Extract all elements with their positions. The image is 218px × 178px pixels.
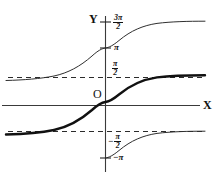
tick-label-minus-pi: −π xyxy=(113,153,123,162)
tick-label-three-pi-over-two: 3π 2 xyxy=(113,13,123,31)
fraction-denominator: 2 xyxy=(112,69,118,77)
fraction-denominator: 2 xyxy=(114,142,120,150)
fraction-denominator: 2 xyxy=(113,23,123,31)
math-graph-figure: Y X O 3π 2 π π 2 − π 2 −π xyxy=(0,0,218,178)
fraction-three-pi-over-two: 3π 2 xyxy=(113,14,123,31)
tick-label-pi: π xyxy=(114,43,119,52)
tick-label-pi-over-two: π 2 xyxy=(112,59,118,77)
origin-label: O xyxy=(93,88,102,100)
y-axis-label: Y xyxy=(89,13,98,25)
fraction-pi-over-two: π 2 xyxy=(112,60,118,77)
fraction-minus-pi-over-two: π 2 xyxy=(114,133,120,150)
tick-label-minus-pi-over-two: − π 2 xyxy=(108,133,121,150)
minus-sign: − xyxy=(108,137,113,146)
x-axis-label: X xyxy=(203,99,212,111)
plot-canvas xyxy=(0,0,218,178)
